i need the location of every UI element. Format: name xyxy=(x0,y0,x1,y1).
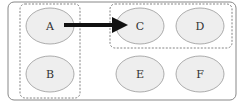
node-D: D xyxy=(176,8,224,44)
node-E: E xyxy=(116,56,164,92)
node-label: A xyxy=(45,20,55,33)
node-label: C xyxy=(136,20,144,33)
node-C: C xyxy=(116,8,164,44)
node-label: B xyxy=(46,68,54,81)
diagram-canvas: A B C D E F xyxy=(0,0,239,105)
node-label: E xyxy=(136,68,144,81)
node-label: F xyxy=(196,68,204,81)
node-label: D xyxy=(196,20,205,33)
node-B: B xyxy=(26,56,74,92)
node-F: F xyxy=(176,56,224,92)
